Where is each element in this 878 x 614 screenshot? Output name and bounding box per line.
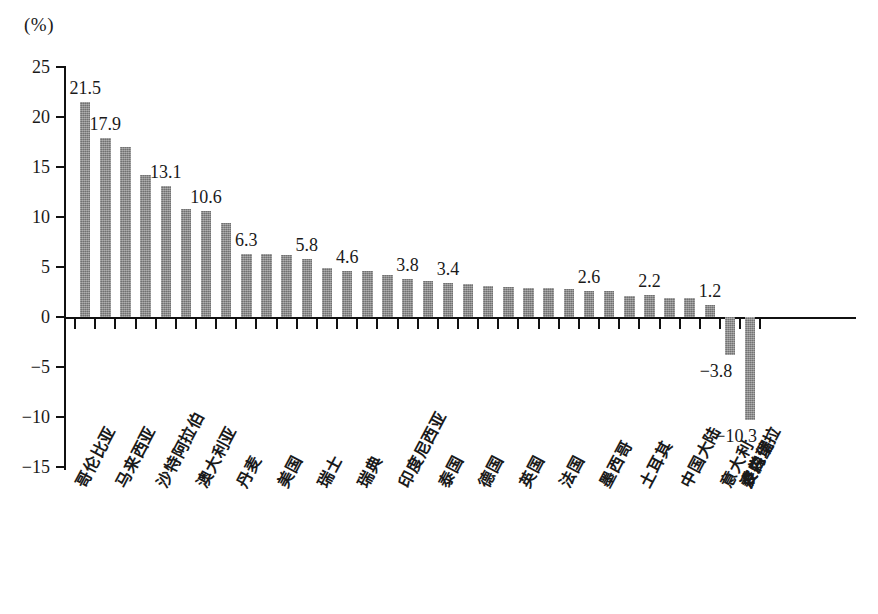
bar bbox=[523, 288, 533, 317]
x-axis-tick bbox=[255, 319, 257, 329]
bar bbox=[604, 291, 614, 317]
x-axis-tick bbox=[296, 319, 298, 329]
x-axis-tick bbox=[497, 319, 499, 329]
x-axis-tick bbox=[699, 319, 701, 329]
x-axis-tick bbox=[376, 319, 378, 329]
x-axis-category-label: 泰国 bbox=[436, 453, 466, 490]
x-axis-tick bbox=[114, 319, 116, 329]
y-axis-tick-label: −10 bbox=[4, 408, 50, 426]
bar-value-label: 13.1 bbox=[137, 163, 195, 181]
x-axis-category-label: 法国 bbox=[557, 453, 587, 490]
bar bbox=[140, 175, 150, 317]
x-axis-tick bbox=[356, 319, 358, 329]
y-axis-tick-label: 15 bbox=[4, 158, 50, 176]
bar bbox=[564, 289, 574, 317]
bar bbox=[281, 255, 291, 317]
x-axis-tick bbox=[598, 319, 600, 329]
bar bbox=[342, 271, 352, 317]
bar-value-label: 6.3 bbox=[217, 231, 275, 249]
y-axis-tick bbox=[56, 116, 65, 118]
x-axis-tick bbox=[397, 319, 399, 329]
plot-area: 2520151050−5−10−1521.517.913.110.66.35.8… bbox=[0, 0, 878, 614]
y-axis-tick bbox=[56, 266, 65, 268]
bar bbox=[423, 281, 433, 317]
y-axis-tick-label: 0 bbox=[4, 308, 50, 326]
x-axis-category-label: 德国 bbox=[477, 453, 507, 490]
x-axis-tick bbox=[739, 319, 741, 329]
x-axis-tick bbox=[316, 319, 318, 329]
y-axis-tick bbox=[56, 416, 65, 418]
y-axis-tick bbox=[56, 366, 65, 368]
x-axis-category-label: 美国 bbox=[275, 453, 305, 490]
x-axis-tick bbox=[538, 319, 540, 329]
x-axis-category-label: 土耳其 bbox=[638, 439, 676, 491]
bar bbox=[684, 298, 694, 317]
x-axis-tick bbox=[759, 319, 761, 329]
bar-value-label: 21.5 bbox=[56, 79, 114, 97]
bar bbox=[362, 271, 372, 317]
y-axis-line bbox=[64, 66, 66, 470]
x-axis-tick bbox=[517, 319, 519, 329]
y-axis-tick-label: −15 bbox=[4, 458, 50, 476]
bar-value-label: 4.6 bbox=[318, 248, 376, 266]
x-axis-tick bbox=[155, 319, 157, 329]
x-axis-tick bbox=[719, 319, 721, 329]
bar bbox=[463, 284, 473, 317]
bar bbox=[161, 186, 171, 317]
bar-value-label: 2.2 bbox=[620, 272, 678, 290]
bar bbox=[201, 211, 211, 317]
y-axis-tick-label: −5 bbox=[4, 358, 50, 376]
x-axis-tick bbox=[638, 319, 640, 329]
x-axis-tick bbox=[215, 319, 217, 329]
y-axis-tick-label: 25 bbox=[4, 58, 50, 76]
bar-chart: (%) 2520151050−5−10−1521.517.913.110.66.… bbox=[0, 0, 878, 614]
bar-value-label: −3.8 bbox=[687, 362, 745, 380]
y-axis-tick-label: 10 bbox=[4, 208, 50, 226]
y-axis-tick-label: 5 bbox=[4, 258, 50, 276]
x-axis-tick bbox=[679, 319, 681, 329]
bar bbox=[745, 317, 755, 420]
bar bbox=[181, 209, 191, 317]
x-axis-tick bbox=[477, 319, 479, 329]
x-axis-tick bbox=[235, 319, 237, 329]
x-axis-tick bbox=[276, 319, 278, 329]
x-axis-line bbox=[64, 317, 856, 319]
bar bbox=[382, 275, 392, 317]
x-axis-tick bbox=[457, 319, 459, 329]
x-axis-tick bbox=[135, 319, 137, 329]
x-axis-tick bbox=[659, 319, 661, 329]
y-axis-tick bbox=[56, 216, 65, 218]
bar bbox=[664, 298, 674, 317]
bar bbox=[725, 317, 735, 355]
x-axis-tick bbox=[437, 319, 439, 329]
bar bbox=[402, 279, 412, 317]
x-axis-tick bbox=[94, 319, 96, 329]
bar-value-label: 1.2 bbox=[681, 282, 739, 300]
y-axis-tick bbox=[56, 466, 65, 468]
bar-value-label: 10.6 bbox=[177, 188, 235, 206]
x-axis-category-label: 瑞士 bbox=[316, 453, 346, 490]
bar bbox=[503, 287, 513, 317]
y-axis-tick-label: 20 bbox=[4, 108, 50, 126]
y-axis-tick bbox=[56, 66, 65, 68]
x-axis-tick bbox=[175, 319, 177, 329]
bar bbox=[80, 102, 90, 317]
y-axis-tick bbox=[56, 166, 65, 168]
bar bbox=[644, 295, 654, 317]
x-axis-category-label: 墨西哥 bbox=[598, 439, 636, 491]
bar bbox=[241, 254, 251, 317]
x-axis-tick bbox=[336, 319, 338, 329]
x-axis-tick bbox=[618, 319, 620, 329]
bar bbox=[261, 254, 271, 317]
x-axis-tick bbox=[578, 319, 580, 329]
bar bbox=[322, 268, 332, 317]
x-axis-tick bbox=[558, 319, 560, 329]
bar bbox=[483, 286, 493, 317]
bar bbox=[302, 259, 312, 317]
x-axis-tick bbox=[74, 319, 76, 329]
bar bbox=[120, 147, 130, 317]
bar bbox=[443, 283, 453, 317]
bar-value-label: 17.9 bbox=[76, 115, 134, 133]
bar-value-label: 2.6 bbox=[560, 268, 618, 286]
y-axis-tick bbox=[56, 316, 65, 318]
